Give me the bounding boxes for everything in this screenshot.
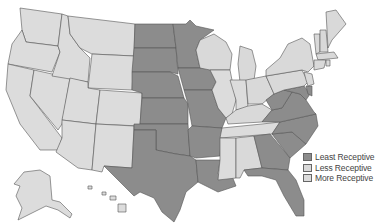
state-hi bbox=[88, 186, 126, 212]
state-me bbox=[326, 10, 346, 48]
state-az bbox=[56, 120, 96, 170]
state-ar bbox=[188, 126, 222, 158]
state-mi bbox=[238, 46, 256, 82]
legend-label: Less Receptive bbox=[315, 163, 372, 173]
state-ma bbox=[316, 52, 338, 60]
state-vt bbox=[314, 34, 320, 54]
state-co bbox=[96, 90, 142, 126]
legend-swatch-more bbox=[303, 174, 312, 182]
state-wa bbox=[20, 8, 62, 46]
legend-swatch-least bbox=[303, 153, 312, 161]
state-nd bbox=[134, 24, 176, 48]
legend-item-least: Least Receptive bbox=[303, 152, 384, 163]
state-ks bbox=[140, 98, 188, 124]
legend-label: Least Receptive bbox=[315, 152, 374, 162]
legend: Least Receptive Less Receptive More Rece… bbox=[303, 152, 384, 184]
state-ri bbox=[326, 60, 330, 66]
state-ny bbox=[266, 38, 314, 76]
state-nm bbox=[92, 124, 134, 172]
legend-item-less: Less Receptive bbox=[303, 163, 384, 174]
legend-label: More Receptive bbox=[315, 173, 373, 183]
state-ct bbox=[314, 60, 326, 70]
state-wi bbox=[196, 34, 232, 70]
state-ak bbox=[14, 170, 72, 220]
state-sd bbox=[132, 48, 178, 74]
state-nh bbox=[320, 30, 328, 52]
state-ia bbox=[178, 68, 216, 90]
legend-swatch-less bbox=[303, 164, 312, 172]
legend-item-more: More Receptive bbox=[303, 173, 384, 184]
state-wy bbox=[88, 54, 134, 90]
state-fl bbox=[244, 168, 304, 216]
state-ms bbox=[218, 138, 236, 180]
us-map bbox=[0, 0, 384, 224]
